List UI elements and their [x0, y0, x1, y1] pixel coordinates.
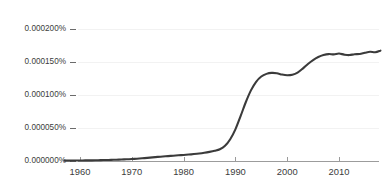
x-axis-tick-label: 2000 — [277, 166, 298, 177]
y-axis-tick-label: 0.000150% — [25, 57, 66, 66]
x-axis-tick-label: 1960 — [70, 166, 91, 177]
x-axis-tick-label: 1990 — [225, 166, 246, 177]
y-axis-tick-label: 0.000200% — [25, 24, 66, 33]
ngram-chart: 0.000200%0.000150%0.000100%0.000050%0.00… — [0, 0, 392, 196]
x-axis-tick-label: 1980 — [173, 166, 194, 177]
x-axis-tick-label: 2010 — [329, 166, 350, 177]
y-axis-tick-label: 0.000050% — [25, 123, 66, 132]
y-axis-tick-label: 0.000000% — [25, 156, 66, 165]
y-axis-tick-label: 0.000100% — [25, 90, 66, 99]
x-axis-tick-label: 1970 — [121, 166, 142, 177]
chart-canvas: 0.000200%0.000150%0.000100%0.000050%0.00… — [0, 0, 392, 196]
